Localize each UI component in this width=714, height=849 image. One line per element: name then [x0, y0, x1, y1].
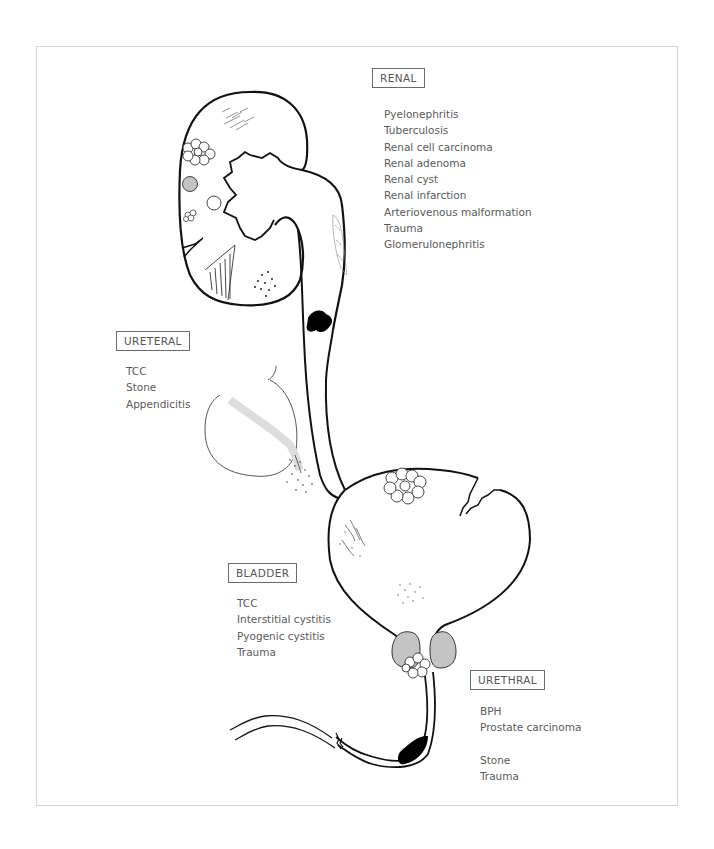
bladder-dots — [339, 531, 423, 603]
bladder-texture — [342, 520, 365, 556]
urethral-label: URETHRAL — [470, 670, 545, 690]
urinary-tract-illustration — [0, 0, 714, 849]
urethral-cause: Trauma — [480, 768, 581, 784]
urethral-cause: BPH — [480, 703, 581, 719]
bladder-cause: Pyogenic cystitis — [237, 628, 331, 644]
renal-cause: Trauma — [384, 220, 532, 236]
ureteral-cause: TCC — [126, 363, 190, 379]
ureteral-causes-list: TCC Stone Appendicitis — [126, 363, 190, 412]
kidney — [179, 92, 344, 330]
renal-cause: Renal infarction — [384, 187, 532, 203]
renal-cause: Glomerulonephritis — [384, 236, 532, 252]
renal-cause: Tuberculosis — [384, 122, 532, 138]
urethral-cause: Prostate carcinoma — [480, 719, 581, 735]
appendix — [205, 366, 301, 476]
list-spacer — [480, 736, 581, 752]
renal-label: RENAL — [372, 68, 425, 88]
ureteral-cause: Appendicitis — [126, 396, 190, 412]
renal-cause: Renal cell carcinoma — [384, 139, 532, 155]
bladder-label: BLADDER — [228, 563, 297, 583]
renal-cause: Renal adenoma — [384, 155, 532, 171]
urethral-cause: Stone — [480, 752, 581, 768]
renal-causes-list: Pyelonephritis Tuberculosis Renal cell c… — [384, 106, 532, 253]
renal-cause: Renal cyst — [384, 171, 532, 187]
ureteral-stone — [307, 311, 333, 333]
renal-cause: Pyelonephritis — [384, 106, 532, 122]
bladder — [329, 469, 530, 660]
urethral-stone — [398, 736, 428, 764]
kidney-lesions — [183, 108, 348, 300]
ureter — [298, 230, 345, 498]
bladder-cause: TCC — [237, 595, 331, 611]
bladder-cause: Interstitial cystitis — [237, 611, 331, 627]
bladder-causes-list: TCC Interstitial cystitis Pyogenic cysti… — [237, 595, 331, 660]
ureteral-cause: Stone — [126, 379, 190, 395]
bladder-cause: Trauma — [237, 644, 331, 660]
bladder-tumor — [384, 468, 426, 504]
ureteral-label: URETERAL — [116, 331, 190, 351]
renal-cause: Arteriovenous malformation — [384, 204, 532, 220]
urethral-causes-list: BPH Prostate carcinoma Stone Trauma — [480, 703, 581, 784]
